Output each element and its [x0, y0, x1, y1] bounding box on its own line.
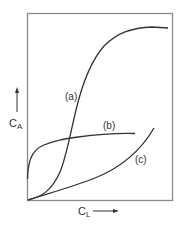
- curve-a: [28, 27, 168, 200]
- y-axis-label: CA: [9, 117, 23, 131]
- curve-c-label: (c): [135, 154, 147, 165]
- x-axis-arrow-icon: [113, 209, 119, 213]
- plot-frame: [28, 14, 173, 201]
- y-axis-arrow-icon: [15, 87, 19, 93]
- curve-b: [28, 133, 136, 179]
- curve-a-label: (a): [65, 91, 77, 102]
- isotherm-diagram: (a) (b) (c) CA CL: [0, 0, 180, 226]
- curve-b-label: (b): [103, 120, 115, 131]
- x-axis-label: CL: [78, 205, 91, 219]
